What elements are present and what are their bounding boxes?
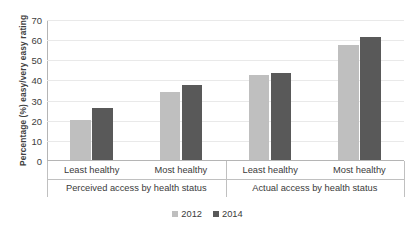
clipped-title: [0, 0, 415, 10]
bar: [338, 45, 359, 160]
legend-label: 2014: [222, 209, 243, 219]
y-axis-tick-label: 10: [31, 135, 42, 146]
category-label: Least healthy: [242, 165, 297, 175]
group-rule: [47, 179, 226, 180]
legend: 20122014: [0, 209, 415, 219]
category-label: Least healthy: [64, 165, 119, 175]
y-axis-tick-label: 20: [31, 115, 42, 126]
y-axis-tick-label: 0: [37, 156, 42, 167]
y-axis-tick-label: 70: [31, 15, 42, 26]
group-label: Perceived access by health status: [66, 183, 207, 193]
category-label: Most healthy: [333, 165, 386, 175]
bar-series-container: [47, 20, 404, 160]
y-axis-tick-label: 60: [31, 35, 42, 46]
bar: [92, 108, 113, 160]
group-label: Actual access by health status: [252, 183, 377, 193]
bar: [160, 92, 181, 160]
legend-swatch-icon: [172, 211, 178, 217]
y-axis-tick-label: 30: [31, 95, 42, 106]
y-axis-title: Percentage (%) easy/very easy rating: [18, 16, 28, 166]
bar: [271, 73, 292, 160]
bar: [360, 37, 381, 160]
group-separator: [404, 161, 405, 197]
plot-area: 706050403020100: [47, 20, 404, 161]
bar-chart: Percentage (%) easy/very easy rating 706…: [0, 0, 415, 230]
y-axis-tick-label: 50: [31, 55, 42, 66]
category-label: Most healthy: [155, 165, 208, 175]
bar: [70, 120, 91, 160]
bar: [182, 85, 203, 160]
legend-label: 2012: [181, 209, 202, 219]
legend-item[interactable]: 2012: [172, 209, 202, 219]
legend-swatch-icon: [213, 211, 219, 217]
group-rule: [226, 179, 405, 180]
y-axis-tick-label: 40: [31, 75, 42, 86]
legend-item[interactable]: 2014: [213, 209, 243, 219]
bar: [249, 75, 270, 160]
